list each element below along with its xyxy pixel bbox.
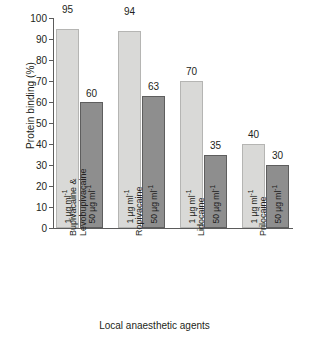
bar-value-label: 70: [186, 66, 197, 77]
y-tick-label: 90: [36, 34, 47, 45]
bar-unit-label: 50 µg ml-1: [87, 184, 96, 223]
y-tick-label: 10: [36, 202, 47, 213]
y-tick-label: 20: [36, 181, 47, 192]
plot-area: 100 90 80 70 60 50 40 30 20 10 0 1 µg ml…: [53, 18, 293, 228]
bar-value-label: 94: [124, 6, 135, 17]
bar-unit-label: 1 µg ml-1: [125, 189, 134, 223]
y-tick-label: 50: [36, 118, 47, 129]
y-tick-label: 80: [36, 55, 47, 66]
y-tick-label: 100: [30, 13, 47, 24]
category-label-prilocaine: Prilocaine: [258, 196, 268, 236]
x-axis-line: [53, 228, 293, 229]
y-tick-label: 30: [36, 160, 47, 171]
y-tick-label: 70: [36, 76, 47, 87]
bar-value-label: 40: [248, 129, 259, 140]
y-tick-label: 0: [41, 223, 47, 234]
y-axis-line: [53, 18, 54, 229]
bar-lidocaine-50ug[interactable]: 50 µg ml-1: [204, 155, 227, 229]
bar-unit-label: 1 µg ml-1: [187, 189, 196, 223]
x-axis-title: Local anaesthetic agents: [0, 320, 309, 331]
bar-unit-label: 50 µg ml-1: [273, 184, 282, 223]
category-label-lidocaine: Lidocaine: [196, 197, 206, 236]
bar-value-label: 95: [62, 4, 73, 15]
bar-value-label: 63: [148, 81, 159, 92]
bar-value-label: 35: [210, 140, 221, 151]
bar-unit-label: 50 µg ml-1: [149, 184, 158, 223]
bar-ropivacaine-50ug[interactable]: 50 µg ml-1: [142, 96, 165, 228]
bar-value-label: 30: [272, 150, 283, 161]
chart-figure: Protein binding (%) 100 90 80 70 60 50 4…: [0, 0, 309, 341]
bar-unit-label: 1 µg ml-1: [249, 189, 258, 223]
y-tick-label: 60: [36, 97, 47, 108]
category-label-ropivacaine: Ropivacaine: [134, 186, 144, 236]
y-axis-title: Protein binding (%): [25, 16, 36, 196]
bar-unit-label: 50 µg ml-1: [211, 184, 220, 223]
bar-prilocaine-50ug[interactable]: 50 µg ml-1: [266, 165, 289, 228]
bar-value-label: 60: [86, 88, 97, 99]
y-tick-label: 40: [36, 139, 47, 150]
